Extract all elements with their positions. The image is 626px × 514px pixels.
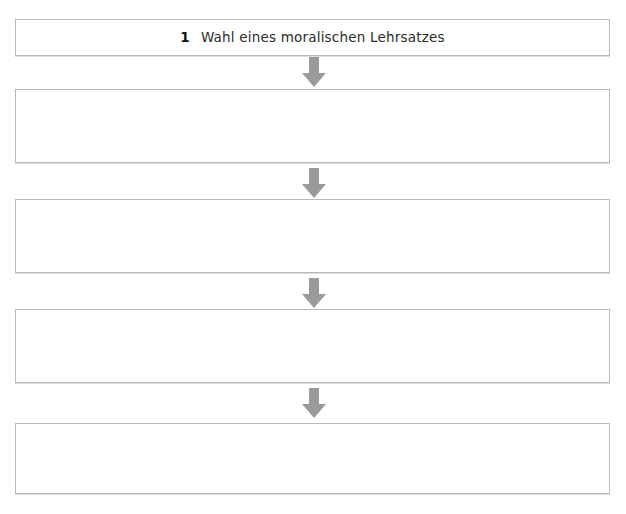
flowchart-step-box-5	[15, 423, 610, 494]
flowchart-step-box-3	[15, 199, 610, 273]
flowchart-step-1-label: Wahl eines moralischen Lehrsatzes	[201, 29, 445, 45]
flowchart-step-1-number: 1	[180, 29, 190, 45]
down-arrow-icon	[301, 278, 327, 309]
flowchart-step-box-2	[15, 89, 610, 163]
down-arrow-icon	[301, 388, 327, 419]
flowchart-step-1-text: 1Wahl eines moralischen Lehrsatzes	[180, 29, 444, 45]
flowchart-step-box-1: 1Wahl eines moralischen Lehrsatzes	[15, 19, 610, 56]
down-arrow-icon	[301, 168, 327, 199]
flowchart-diagram: 1Wahl eines moralischen Lehrsatzes	[0, 0, 626, 514]
flowchart-step-box-4	[15, 309, 610, 383]
down-arrow-icon	[301, 57, 327, 88]
